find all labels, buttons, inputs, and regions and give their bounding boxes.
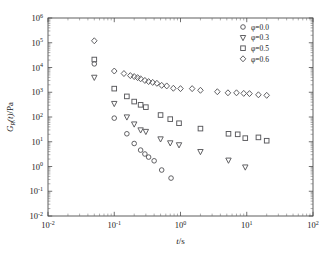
data-point: [234, 90, 240, 96]
data-point: [152, 158, 157, 163]
x-tick-label: 100: [175, 220, 187, 230]
data-point: [264, 92, 270, 98]
legend-marker-3: [240, 56, 246, 62]
data-point: [225, 90, 231, 96]
data-point: [241, 90, 247, 96]
data-point: [121, 71, 127, 77]
legend-label-2: φ=0.5: [251, 44, 269, 53]
y-tick-label: 102: [32, 112, 44, 122]
y-tick-label: 10-1: [30, 186, 44, 196]
x-tick-label: 10-2: [41, 220, 55, 230]
data-point: [125, 131, 130, 136]
series-1-triangle-down: [92, 75, 248, 170]
x-tick-label: 10-1: [108, 220, 122, 230]
data-point: [131, 122, 136, 127]
data-point: [176, 143, 181, 148]
data-point: [235, 132, 240, 137]
y-axis-title: GR(t)/Pa: [5, 102, 16, 132]
data-point: [138, 128, 143, 133]
y-tick-label: 105: [32, 37, 44, 47]
data-point: [124, 115, 129, 120]
data-point: [226, 158, 231, 163]
data-point: [143, 129, 148, 134]
data-point: [198, 149, 203, 154]
data-point: [226, 131, 231, 136]
x-tick-label: 102: [307, 220, 319, 230]
data-point: [132, 99, 137, 104]
data-point: [144, 105, 149, 110]
data-point: [92, 38, 98, 44]
data-point: [215, 89, 221, 95]
legend-label-0: φ=0.0: [251, 23, 269, 32]
figure-panel: 10-210-110010110210-210-1100101102103104…: [0, 0, 328, 262]
data-point: [112, 86, 117, 91]
y-tick-label: 103: [32, 87, 44, 97]
data-point: [158, 113, 163, 118]
data-point: [112, 116, 117, 121]
svg-text:GR(t)/Pa: GR(t)/Pa: [5, 102, 16, 132]
data-point: [158, 137, 163, 142]
data-point: [146, 155, 151, 160]
data-point: [178, 86, 184, 92]
legend-marker-2: [241, 46, 246, 51]
data-point: [138, 103, 143, 108]
data-point: [125, 94, 130, 99]
data-point: [264, 138, 269, 143]
data-point: [168, 117, 173, 122]
data-point: [256, 92, 262, 98]
data-point: [92, 75, 97, 80]
x-tick-label: 101: [241, 220, 253, 230]
data-point: [198, 87, 204, 93]
y-tick-label: 106: [32, 13, 44, 23]
log-log-scatter-chart: 10-210-110010110210-210-1100101102103104…: [0, 0, 328, 262]
legend-label-3: φ=0.6: [251, 55, 269, 64]
data-point: [247, 91, 253, 97]
x-axis-title: t/s: [176, 236, 185, 246]
series-3-diamond: [92, 38, 270, 99]
y-tick-label: 100: [32, 161, 44, 171]
data-point: [168, 141, 173, 146]
data-point: [112, 101, 117, 106]
y-tick-label: 104: [32, 62, 44, 72]
data-point: [111, 68, 117, 74]
data-point: [164, 83, 170, 89]
series-2-square: [92, 57, 269, 143]
series-0-circle: [92, 62, 173, 181]
data-point: [138, 148, 143, 153]
plot-frame: [48, 18, 313, 216]
data-point: [243, 165, 248, 170]
legend-marker-1: [240, 36, 245, 41]
data-point: [256, 135, 261, 140]
legend-label-1: φ=0.3: [251, 33, 269, 42]
y-tick-label: 101: [32, 136, 44, 146]
data-point: [198, 126, 203, 131]
data-point: [169, 176, 174, 181]
data-point: [171, 85, 177, 91]
data-point: [132, 141, 137, 146]
data-point: [177, 121, 182, 126]
data-point: [159, 168, 164, 173]
data-point: [189, 86, 195, 92]
data-point: [243, 136, 248, 141]
legend-marker-0: [241, 25, 246, 30]
